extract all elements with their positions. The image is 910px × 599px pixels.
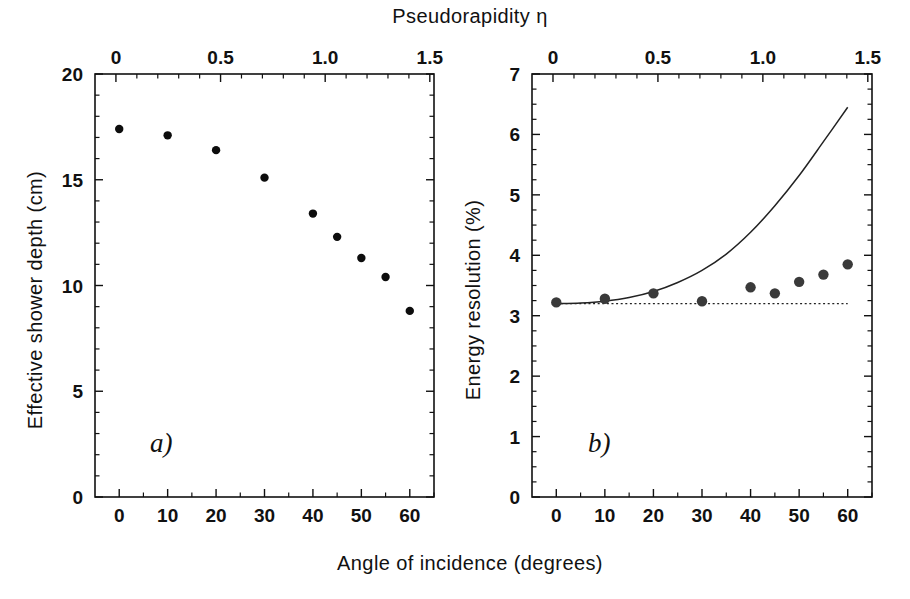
- data-point: [260, 173, 268, 181]
- x-tick-label: 10: [157, 505, 178, 526]
- x-tick-label: 50: [351, 505, 372, 526]
- y-tick-label: 15: [62, 170, 84, 191]
- x2-tick-label: 1.5: [417, 47, 444, 68]
- x-tick-label: 10: [594, 505, 615, 526]
- panel-a-data-points: [115, 125, 414, 315]
- figure-svg: Pseudorapidity η 0102030405060 05101520 …: [0, 0, 910, 599]
- y-tick-label: 0: [72, 487, 83, 508]
- data-point: [770, 288, 780, 298]
- y-tick-label: 1: [509, 427, 520, 448]
- y-tick-label: 3: [509, 306, 520, 327]
- x2-tick-label: 1.0: [312, 47, 338, 68]
- x-tick-label: 40: [302, 505, 323, 526]
- panel-a-pseudorapidity-tick-labels: 00.51.01.5: [111, 47, 444, 68]
- x-tick-label: 30: [254, 505, 275, 526]
- x-tick-label: 0: [551, 505, 562, 526]
- panel-b: 0102030405060 01234567 00.51.01.5 Energy…: [462, 47, 881, 526]
- x2-tick-label: 0.5: [645, 47, 672, 68]
- data-point: [794, 277, 804, 287]
- y-tick-label: 2: [509, 366, 520, 387]
- bottom-axis-title: Angle of incidence (degrees): [337, 552, 603, 574]
- data-point: [357, 254, 365, 262]
- y-tick-label: 20: [62, 64, 83, 85]
- x-tick-label: 20: [206, 505, 227, 526]
- data-point: [697, 296, 707, 306]
- data-point: [333, 233, 341, 241]
- x2-tick-label: 0: [111, 47, 122, 68]
- panel-b-y-tick-labels: 01234567: [509, 64, 520, 508]
- data-point: [163, 131, 171, 139]
- panel-a-y-axis-title: Effective shower depth (cm): [24, 171, 46, 429]
- panel-a: 0102030405060 05101520 00.51.01.5 Effect…: [24, 47, 443, 526]
- panel-b-data-points: [551, 259, 853, 307]
- y-tick-label: 7: [509, 64, 520, 85]
- panel-a-y-tick-labels: 05101520: [62, 64, 84, 508]
- x2-tick-label: 1.5: [855, 47, 882, 68]
- panel-a-x-tick-labels: 0102030405060: [114, 505, 420, 526]
- figure-container: Pseudorapidity η 0102030405060 05101520 …: [0, 0, 910, 599]
- panel-b-pseudorapidity-tick-labels: 00.51.01.5: [548, 47, 882, 68]
- y-tick-label: 0: [509, 487, 520, 508]
- data-point: [212, 146, 220, 154]
- data-point: [406, 307, 414, 315]
- panel-a-axes-frame: [95, 74, 434, 497]
- axes-frame-rect: [95, 74, 434, 497]
- top-axis-title: Pseudorapidity η: [392, 5, 547, 27]
- y-tick-label: 6: [509, 124, 520, 145]
- y-tick-label: 5: [72, 381, 83, 402]
- y-tick-label: 5: [509, 185, 520, 206]
- x-tick-label: 50: [789, 505, 810, 526]
- panel-b-model-curve: [556, 107, 847, 303]
- data-point: [818, 269, 828, 279]
- x-tick-label: 20: [643, 505, 664, 526]
- data-point: [648, 288, 658, 298]
- data-point: [115, 125, 123, 133]
- panel-b-x-tick-labels: 0102030405060: [551, 505, 858, 526]
- panel-a-label: a): [150, 428, 173, 458]
- x-tick-label: 60: [837, 505, 858, 526]
- panel-b-label: b): [588, 428, 611, 458]
- x-tick-label: 30: [691, 505, 712, 526]
- x-tick-label: 40: [740, 505, 761, 526]
- model-curve-path: [556, 107, 847, 303]
- y-tick-label: 4: [509, 245, 520, 266]
- data-point: [309, 209, 317, 217]
- panel-b-y-axis-title: Energy resolution (%): [462, 200, 484, 401]
- x-tick-label: 0: [114, 505, 125, 526]
- panel-b-ticks: [532, 74, 872, 497]
- axes-frame-rect: [532, 74, 872, 497]
- panel-a-ticks: [95, 74, 434, 497]
- x-tick-label: 60: [399, 505, 420, 526]
- data-point: [600, 294, 610, 304]
- y-tick-label: 10: [62, 276, 83, 297]
- panel-b-axes-frame: [532, 74, 872, 497]
- data-point: [843, 259, 853, 269]
- x2-tick-label: 0: [548, 47, 559, 68]
- x2-tick-label: 0.5: [207, 47, 234, 68]
- data-point: [745, 282, 755, 292]
- data-point: [551, 297, 561, 307]
- data-point: [381, 273, 389, 281]
- x2-tick-label: 1.0: [750, 47, 776, 68]
